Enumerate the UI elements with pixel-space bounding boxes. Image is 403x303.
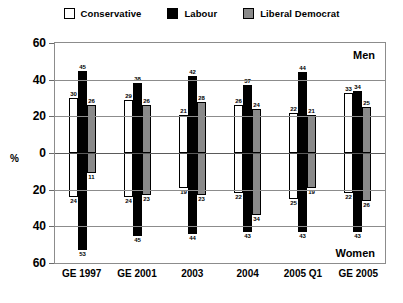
bar-men-labour[interactable]: 44	[298, 72, 307, 153]
bar-women-labour[interactable]: 53	[78, 153, 87, 250]
bar-value-label: 25	[363, 100, 370, 106]
bar-value-label: 26	[88, 98, 95, 104]
bar-value-label: 45	[134, 237, 141, 243]
y-axis-tick-label: 60	[33, 256, 46, 270]
zero-axis-line	[55, 153, 385, 154]
bar-men-conservative[interactable]: 21	[179, 115, 188, 154]
bar-women-conservative[interactable]: 22	[344, 153, 353, 193]
bar-group-men: 214228	[165, 43, 220, 153]
bar-value-label: 42	[189, 69, 196, 75]
bar-men-conservative[interactable]: 26	[234, 105, 243, 153]
x-axis-labels: GE 1997GE 2001200320042005 Q1GE 2005	[54, 268, 386, 279]
bar-value-label: 22	[235, 194, 242, 200]
legend-item-conservative: Conservative	[64, 8, 142, 19]
bar-group-women: 244523	[110, 153, 165, 263]
legend-swatch-libdem-icon	[243, 8, 254, 19]
bar-men-labour[interactable]: 37	[243, 85, 252, 153]
y-axis-tick-label: 20	[33, 183, 46, 197]
x-axis-tick-label: GE 1997	[54, 268, 109, 279]
bar-value-label: 45	[79, 64, 86, 70]
bar-value-label: 53	[79, 251, 86, 257]
bar-group-men: 304526	[55, 43, 110, 153]
bar-men-conservative[interactable]: 30	[69, 98, 78, 153]
gridline	[55, 116, 385, 117]
x-axis-tick-label: GE 2005	[331, 268, 386, 279]
plot-area: Men Women 304526245311293826244523214228…	[54, 42, 386, 264]
gridline	[55, 190, 385, 191]
bar-value-label: 34	[253, 216, 260, 222]
bar-women-libdem[interactable]: 11	[87, 153, 96, 173]
legend-swatch-labour-icon	[167, 8, 178, 19]
bar-value-label: 33	[345, 86, 352, 92]
bar-men-libdem[interactable]: 28	[197, 102, 206, 153]
bar-women-libdem[interactable]: 19	[307, 153, 316, 188]
bar-value-label: 34	[354, 84, 361, 90]
bar-men-conservative[interactable]: 22	[289, 113, 298, 153]
bar-value-label: 23	[198, 196, 205, 202]
bar-men-libdem[interactable]: 26	[142, 105, 151, 153]
bar-women-labour[interactable]: 45	[133, 153, 142, 236]
legend-swatch-conservative-icon	[64, 8, 75, 19]
bar-women-libdem[interactable]: 34	[252, 153, 261, 215]
bar-value-label: 21	[308, 108, 315, 114]
bar-women-labour[interactable]: 43	[243, 153, 252, 232]
bar-group-women: 224334	[220, 153, 275, 263]
bar-men-libdem[interactable]: 21	[307, 115, 316, 154]
bar-value-label: 24	[70, 198, 77, 204]
bar-value-label: 26	[235, 98, 242, 104]
x-axis-tick-label: 2004	[220, 268, 275, 279]
y-axis-tick-label: 40	[33, 73, 46, 87]
bar-value-label: 43	[244, 233, 251, 239]
bar-men-libdem[interactable]: 25	[362, 107, 371, 153]
bar-value-label: 28	[198, 95, 205, 101]
bar-group-women: 194423	[165, 153, 220, 263]
bar-group-men: 293826	[110, 43, 165, 153]
bar-women-libdem[interactable]: 26	[362, 153, 371, 201]
bar-value-label: 26	[143, 98, 150, 104]
bar-value-label: 21	[180, 108, 187, 114]
bar-value-label: 22	[290, 106, 297, 112]
chart-legend: Conservative Labour Liberal Democrat	[0, 8, 403, 19]
bar-men-conservative[interactable]: 29	[124, 100, 133, 153]
bar-men-labour[interactable]: 38	[133, 83, 142, 153]
bar-men-libdem[interactable]: 26	[87, 105, 96, 153]
bar-value-label: 11	[88, 174, 94, 180]
gridline	[55, 80, 385, 81]
x-axis-tick-label: 2003	[165, 268, 220, 279]
legend-item-libdem: Liberal Democrat	[243, 8, 339, 19]
bar-value-label: 44	[189, 235, 196, 241]
bar-value-label: 43	[354, 233, 361, 239]
bar-value-label: 25	[290, 200, 297, 206]
bar-men-labour[interactable]: 34	[353, 91, 362, 153]
bar-value-label: 30	[70, 91, 77, 97]
bar-value-label: 24	[253, 102, 260, 108]
y-axis-tick-label: 60	[33, 36, 46, 50]
y-axis-unit-label: %	[10, 153, 19, 164]
bar-women-conservative[interactable]: 25	[289, 153, 298, 199]
bar-value-label: 23	[143, 196, 150, 202]
bar-group-men: 263724	[220, 43, 275, 153]
y-axis-tick-label: 20	[33, 109, 46, 123]
bar-men-labour[interactable]: 42	[188, 76, 197, 153]
bar-women-conservative[interactable]: 22	[234, 153, 243, 193]
bar-women-labour[interactable]: 44	[188, 153, 197, 234]
legend-label-conservative: Conservative	[81, 8, 142, 19]
bar-value-label: 22	[345, 194, 352, 200]
bar-group-women: 224326	[330, 153, 385, 263]
bar-men-conservative[interactable]: 33	[344, 93, 353, 154]
bar-value-label: 43	[299, 233, 306, 239]
bar-value-label: 24	[125, 198, 132, 204]
bar-group-women: 254319	[275, 153, 330, 263]
bar-value-label: 29	[125, 93, 132, 99]
legend-item-labour: Labour	[167, 8, 217, 19]
bar-men-labour[interactable]: 45	[78, 71, 87, 154]
legend-label-labour: Labour	[184, 8, 217, 19]
x-axis-tick-label: 2005 Q1	[275, 268, 330, 279]
bar-women-labour[interactable]: 43	[353, 153, 362, 232]
bar-women-conservative[interactable]: 19	[179, 153, 188, 188]
bar-group-men: 333425	[330, 43, 385, 153]
bar-women-labour[interactable]: 43	[298, 153, 307, 232]
gender-voting-intention-chart: Conservative Labour Liberal Democrat 604…	[0, 0, 403, 303]
bar-group-women: 245311	[55, 153, 110, 263]
bar-value-label: 26	[363, 202, 370, 208]
